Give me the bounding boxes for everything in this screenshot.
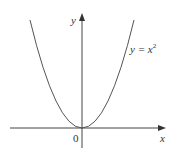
y-axis-arrow-icon bbox=[79, 13, 85, 21]
parabola-chart: y x 0 y = x2 bbox=[0, 0, 177, 158]
origin-label: 0 bbox=[73, 132, 79, 144]
curve-label-exponent: 2 bbox=[153, 42, 157, 50]
x-axis-arrow-icon bbox=[158, 125, 166, 131]
curve-label-base: y = x bbox=[129, 43, 153, 55]
x-axis bbox=[10, 125, 166, 131]
y-axis-label: y bbox=[70, 14, 76, 26]
curve-label: y = x2 bbox=[129, 42, 157, 55]
x-axis-label: x bbox=[159, 132, 165, 144]
